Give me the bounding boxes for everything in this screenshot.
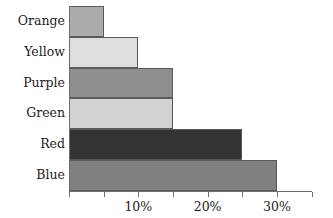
x-axis-line	[69, 191, 312, 192]
category-label-red: Red	[40, 138, 65, 151]
x-tick-25	[242, 192, 243, 197]
x-tick-30	[277, 192, 278, 197]
category-label-blue: Blue	[36, 169, 65, 182]
category-label-orange: Orange	[18, 15, 65, 28]
category-label-yellow: Yellow	[24, 46, 65, 59]
x-tick-15	[173, 192, 174, 197]
bar-purple	[69, 68, 173, 99]
x-tick-5	[104, 192, 105, 197]
bar-green	[69, 98, 173, 129]
x-tick-0	[69, 192, 70, 197]
y-axis-line	[69, 6, 70, 192]
category-label-green: Green	[26, 107, 65, 120]
x-tick-20	[208, 192, 209, 197]
bar-yellow	[69, 37, 138, 68]
x-tick-label-20: 20%	[178, 201, 238, 214]
x-tick-35	[312, 192, 313, 197]
bar-orange	[69, 6, 104, 37]
x-tick-label-10: 10%	[108, 201, 168, 214]
plot-area: Orange Yellow Purple Green Red Blue 10%2…	[0, 0, 333, 218]
bar-blue	[69, 160, 277, 191]
category-label-purple: Purple	[23, 77, 65, 90]
x-tick-10	[138, 192, 139, 197]
x-tick-label-30: 30%	[247, 201, 307, 214]
bar-red	[69, 129, 242, 160]
bar-chart: Orange Yellow Purple Green Red Blue 10%2…	[0, 0, 333, 218]
